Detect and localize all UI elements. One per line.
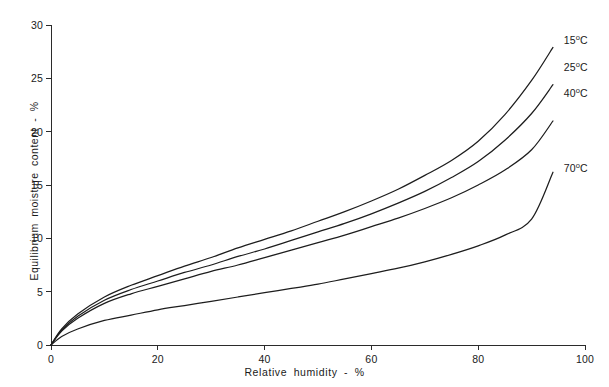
series-label-unit: C <box>580 87 588 99</box>
y-tick-label-30: 30 <box>11 19 43 31</box>
series-label-value: 40 <box>564 87 576 99</box>
x-tick-label-80: 80 <box>472 353 484 365</box>
series-label-unit: C <box>580 34 588 46</box>
x-tick-label-100: 100 <box>576 353 594 365</box>
equilibrium-moisture-chart: 020406080100 051015202530 15oC25oC40oC70… <box>0 0 609 387</box>
series-label-unit: C <box>580 61 588 73</box>
curve-70c <box>51 172 553 345</box>
chart-series-curves <box>51 47 553 345</box>
x-tick-label-60: 60 <box>365 353 377 365</box>
series-label-25c: 25oC <box>564 61 588 73</box>
series-label-15c: 15oC <box>564 34 588 46</box>
curve-25c <box>51 85 553 345</box>
y-tick-label-0: 0 <box>11 339 43 351</box>
x-axis-title: Relative humidity - % <box>0 366 609 378</box>
series-label-40c: 40oC <box>564 87 588 99</box>
curve-40c <box>51 121 553 345</box>
chart-tick-marks <box>46 25 585 350</box>
x-tick-label-40: 40 <box>259 353 271 365</box>
curve-15c <box>51 47 553 345</box>
y-axis-title: Equilibrium moisture content - % <box>28 61 40 321</box>
x-tick-label-20: 20 <box>152 353 164 365</box>
series-label-unit: C <box>580 162 588 174</box>
x-tick-label-0: 0 <box>48 353 54 365</box>
chart-canvas <box>0 0 609 387</box>
series-label-value: 70 <box>564 162 576 174</box>
series-label-70c: 70oC <box>564 162 588 174</box>
chart-axes <box>51 25 585 345</box>
series-label-value: 15 <box>564 34 576 46</box>
series-label-value: 25 <box>564 61 576 73</box>
